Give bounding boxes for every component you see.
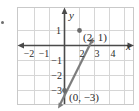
x-tick-label-3: 3 [95,48,100,59]
point-marker-0-neg3 [62,88,67,93]
x-tick-label-neg2: −2 [24,48,35,59]
y-axis-label: y [68,9,74,21]
y-tick-label-neg3: −3 [51,85,62,96]
x-tick-label-4: 4 [111,48,116,59]
x-tick-label-neg1: −1 [39,48,50,59]
point-label-0-neg3: (0, −3) [69,91,99,104]
x-tick-label-2: 2 [80,48,85,59]
page-edge-dot [1,21,4,24]
graph-svg: y x −2 −1 2 3 4 1 −1 −2 −3 (2, 1) (0, −3… [0,0,139,111]
y-tick-label-1: 1 [56,25,61,36]
y-tick-label-neg2: −2 [51,70,62,81]
point-label-2-1: (2, 1) [83,31,107,44]
point-marker-2-1 [77,28,82,33]
y-tick-label-neg1: −1 [51,55,62,66]
x-axis-label: x [125,40,131,52]
coordinate-plane-figure: y x −2 −1 2 3 4 1 −1 −2 −3 (2, 1) (0, −3… [0,0,139,111]
